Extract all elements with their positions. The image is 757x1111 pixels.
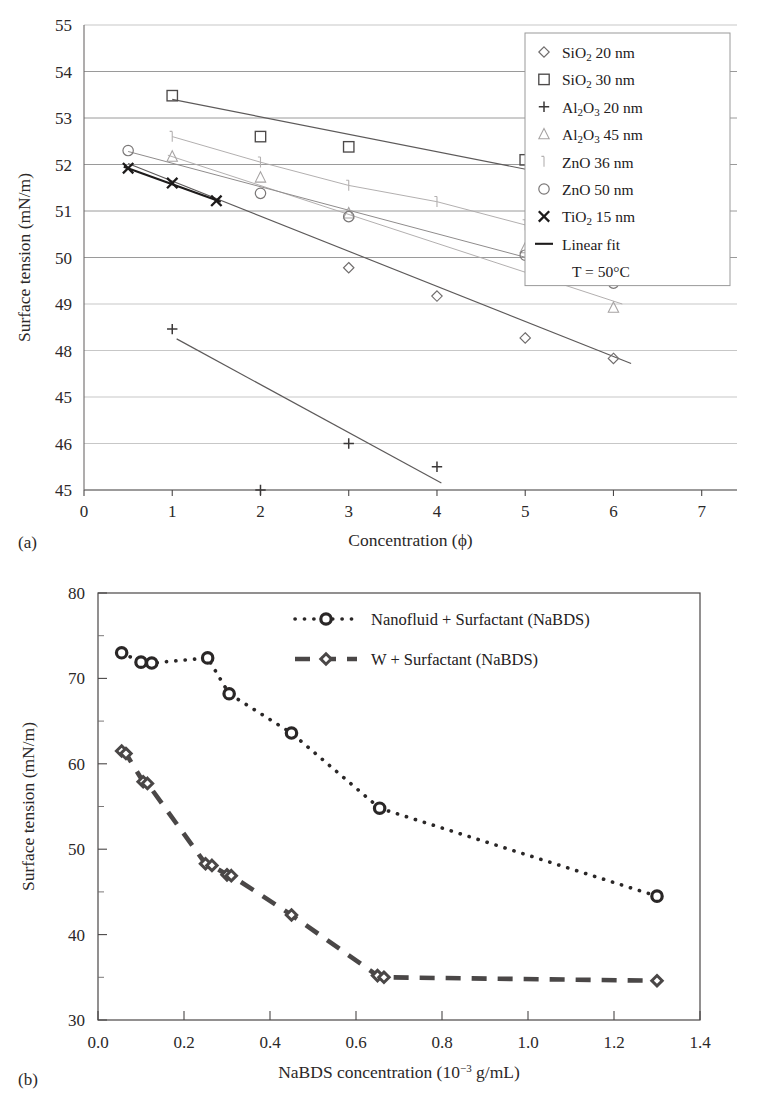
x-tick-label-b: 1.4 [689,1033,711,1052]
legend-marker-circle [321,614,331,624]
data-point-square [344,142,354,152]
legend-entry-b [295,654,357,664]
y-tick-label-a: 45 [55,388,72,407]
data-point-diamond [207,860,217,870]
x-tick-label-a: 0 [80,502,89,521]
data-point-circle [374,803,384,813]
legend-marker-diamond [321,654,331,664]
x-axis-title-b: NaBDS concentration (10−3 g/mL) [278,1062,520,1082]
y-tick-label-a: 55 [55,16,72,35]
x-tick-label-a: 1 [168,502,177,521]
y-axis-title-b: Surface tension (mN/m) [18,722,38,891]
legend-label: Linear fit [562,236,621,253]
data-point-diamond [652,976,662,986]
y-tick-label-a: 46 [55,435,72,454]
data-point-triangle [608,302,618,312]
data-point-circle [652,891,662,901]
data-point-circle [123,145,133,155]
y-tick-label-a: 48 [55,342,72,361]
legend-label: ZnO 36 nm [562,154,633,171]
y-tick-label-b: 70 [68,669,85,688]
data-point-circle [255,188,265,198]
data-point-triangle [167,151,177,161]
legend-label-b: W + Surfactant (NaBDS) [371,650,538,669]
data-point-plus [167,324,177,334]
legend-label: SiO2 30 nm [562,71,635,90]
legend-label: Al2O3 45 nm [562,126,643,145]
legend-entry-b [295,614,357,624]
data-point-plus [432,462,442,472]
data-point-circle [286,728,296,738]
legend-label: SiO2 20 nm [562,44,635,63]
data-point-diamond [432,291,442,301]
chart-a-canvas: 555453525150494845464501234567Concentrat… [0,0,757,565]
data-point-tick [170,131,173,141]
x-tick-label-b: 1.2 [603,1033,624,1052]
data-point-square [167,90,177,100]
y-tick-label-a: 51 [55,202,72,221]
data-point-diamond [520,333,530,343]
legend-label: Al2O3 20 nm [562,99,643,118]
data-point-diamond [121,748,131,758]
legend-temperature-annotation: T = 50°C [572,263,630,280]
y-tick-label-a: 54 [55,63,73,82]
y-tick-label-b: 40 [68,926,85,945]
data-point-square [255,131,265,141]
y-tick-label-a: 52 [55,156,72,175]
x-tick-label-b: 0.0 [87,1033,108,1052]
x-tick-label-b: 0.2 [173,1033,194,1052]
x-tick-label-a: 4 [433,502,442,521]
data-point-circle [136,657,146,667]
legend-label: ZnO 50 nm [562,181,633,198]
y-tick-label-b: 60 [68,755,85,774]
legend-label: TiO2 15 nm [562,208,635,227]
y-tick-label-b: 80 [68,584,85,603]
data-point-diamond [379,972,389,982]
chart-panel-a: 555453525150494845464501234567Concentrat… [0,0,757,565]
x-axis-title-a: Concentration (ϕ) [348,530,473,550]
figure-surface-tension: 555453525150494845464501234567Concentrat… [0,0,757,1111]
y-tick-label-a: 50 [55,249,72,268]
linear-fit-line [177,339,442,483]
y-tick-label-a: 53 [55,109,72,128]
x-tick-label-b: 1.0 [517,1033,538,1052]
x-tick-label-a: 5 [521,502,530,521]
data-point-diamond [142,778,152,788]
y-tick-label-a: 49 [55,295,72,314]
y-tick-label-b: 50 [68,840,85,859]
data-point-diamond [286,910,296,920]
y-tick-label-a: 45 [55,481,72,500]
x-tick-label-a: 2 [256,502,265,521]
x-tick-label-a: 7 [697,502,706,521]
panel-label-b: (b) [18,1070,38,1089]
x-tick-label-a: 6 [609,502,618,521]
x-tick-label-b: 0.8 [431,1033,452,1052]
chart-b-canvas: 3040506070800.00.20.40.60.81.01.21.4NaBD… [0,565,757,1111]
data-point-circle [202,653,212,663]
legend-label-b: Nanofluid + Surfactant (NaBDS) [371,610,590,629]
data-point-diamond [226,870,236,880]
data-point-circle [116,648,126,658]
data-point-plus [255,485,265,495]
data-point-diamond [344,263,354,273]
x-tick-label-a: 3 [344,502,353,521]
data-point-triangle [255,172,265,182]
chart-panel-b: 3040506070800.00.20.40.60.81.01.21.4NaBD… [0,565,757,1111]
data-point-circle [344,211,354,221]
y-axis-title-a: Surface tension (mN/m) [14,173,34,342]
data-point-plus [344,438,354,448]
panel-label-a: (a) [18,533,37,552]
x-tick-label-b: 0.6 [345,1033,366,1052]
data-point-circle [224,689,234,699]
data-point-circle [147,658,157,668]
y-tick-label-b: 30 [68,1011,85,1030]
x-tick-label-b: 0.4 [259,1033,281,1052]
